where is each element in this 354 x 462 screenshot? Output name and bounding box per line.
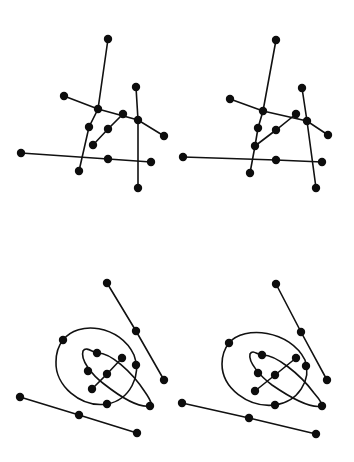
line-edge — [250, 40, 276, 173]
vertex-node — [160, 132, 168, 140]
panel-bottom-right — [178, 280, 331, 438]
vertex-node — [103, 400, 111, 408]
vertex-node — [303, 117, 311, 125]
vertex-node — [147, 158, 155, 166]
vertex-node — [225, 339, 233, 347]
vertex-node — [59, 336, 67, 344]
vertex-node — [84, 367, 92, 375]
vertex-node — [258, 351, 266, 359]
vertex-node — [312, 430, 320, 438]
curve-edge — [250, 352, 323, 406]
vertex-node — [272, 126, 280, 134]
curve-edge — [83, 349, 152, 406]
vertex-node — [93, 349, 101, 357]
vertex-node — [272, 36, 280, 44]
vertex-node — [133, 429, 141, 437]
vertex-node — [132, 83, 140, 91]
vertex-node — [104, 155, 112, 163]
vertex-node — [160, 376, 168, 384]
vertex-node — [119, 110, 127, 118]
vertex-node — [89, 141, 97, 149]
vertex-node — [302, 362, 310, 370]
vertex-node — [104, 125, 112, 133]
vertex-node — [103, 279, 111, 287]
vertex-node — [259, 107, 267, 115]
vertex-node — [94, 105, 102, 113]
vertex-node — [134, 184, 142, 192]
vertex-node — [88, 385, 96, 393]
vertex-node — [60, 92, 68, 100]
panel-top-left — [17, 35, 168, 192]
vertex-node — [318, 158, 326, 166]
vertex-node — [104, 35, 112, 43]
panel-top-right — [179, 36, 332, 192]
vertex-node — [251, 387, 259, 395]
line-edge — [21, 153, 151, 162]
vertex-node — [254, 369, 262, 377]
vertex-node — [246, 169, 254, 177]
vertex-node — [134, 116, 142, 124]
curve-edge — [222, 333, 307, 406]
line-edge — [136, 87, 138, 188]
vertex-node — [245, 414, 253, 422]
line-edge — [302, 88, 316, 188]
vertex-node — [292, 354, 300, 362]
vertex-node — [75, 167, 83, 175]
vertex-node — [323, 376, 331, 384]
vertex-node — [178, 399, 186, 407]
line-edge — [64, 96, 164, 136]
vertex-node — [16, 393, 24, 401]
vertex-node — [318, 402, 326, 410]
vertex-node — [226, 95, 234, 103]
vertex-node — [312, 184, 320, 192]
panel-bottom-left — [16, 279, 168, 437]
curve-edge — [56, 328, 137, 404]
vertex-node — [132, 327, 140, 335]
vertex-node — [298, 84, 306, 92]
vertex-node — [292, 110, 300, 118]
line-edge — [79, 39, 108, 171]
vertex-node — [272, 280, 280, 288]
vertex-node — [297, 328, 305, 336]
diagram-svg — [0, 0, 354, 462]
vertex-node — [103, 370, 111, 378]
vertex-node — [75, 411, 83, 419]
vertex-node — [132, 361, 140, 369]
vertex-node — [324, 131, 332, 139]
vertex-node — [251, 142, 259, 150]
vertex-node — [254, 124, 262, 132]
vertex-node — [85, 123, 93, 131]
vertex-node — [271, 401, 279, 409]
vertex-node — [272, 156, 280, 164]
vertex-node — [146, 402, 154, 410]
vertex-node — [118, 354, 126, 362]
vertex-node — [17, 149, 25, 157]
diagram-canvas — [0, 0, 354, 462]
vertex-node — [271, 371, 279, 379]
vertex-node — [179, 153, 187, 161]
